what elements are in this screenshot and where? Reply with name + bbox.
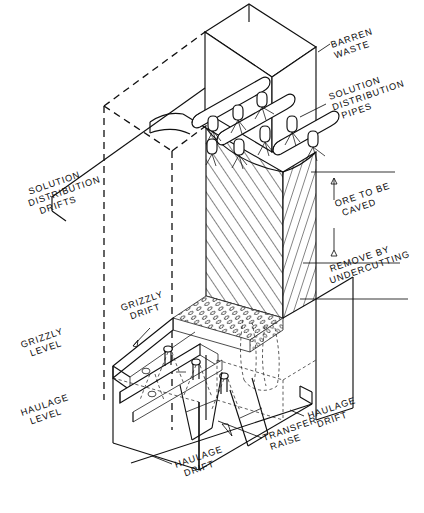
block-caving-isometric-drawing: BARREN WASTE SOLUTION DISTRIBUTION PIPES… (0, 0, 424, 513)
mine-diagram-figure: BARREN WASTE SOLUTION DISTRIBUTION PIPES… (0, 0, 424, 513)
